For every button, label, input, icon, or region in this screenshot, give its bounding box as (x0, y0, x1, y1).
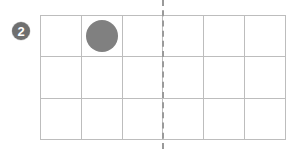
grid-cell-r2-c3[interactable] (123, 57, 164, 98)
dashed-divider-line (162, 0, 164, 149)
question-number-label: 2 (17, 24, 24, 37)
grid-cell-r1-c5[interactable] (204, 16, 245, 57)
grid-cell-r2-c6[interactable] (245, 57, 286, 98)
grid-cell-r3-c5[interactable] (204, 99, 245, 140)
grid-cell-r1-c6[interactable] (245, 16, 286, 57)
grid-cell-r1-c3[interactable] (123, 16, 164, 57)
grid-cell-r2-c4[interactable] (163, 57, 204, 98)
grid-cell-r3-c3[interactable] (123, 99, 164, 140)
grid-cell-r1-c2[interactable] (82, 16, 123, 57)
grid-cell-r2-c1[interactable] (41, 57, 82, 98)
counter-token-circle (86, 20, 118, 52)
grid-cell-r1-c1[interactable] (41, 16, 82, 57)
grid-cell-r2-c5[interactable] (204, 57, 245, 98)
worksheet-canvas: 2 (0, 0, 294, 149)
grid-cell-r1-c4[interactable] (163, 16, 204, 57)
grid-cell-r3-c4[interactable] (163, 99, 204, 140)
question-number-badge: 2 (12, 22, 30, 40)
grid-cell-r2-c2[interactable] (82, 57, 123, 98)
grid-cell-r3-c1[interactable] (41, 99, 82, 140)
grid-cell-r3-c6[interactable] (245, 99, 286, 140)
grid-cell-r3-c2[interactable] (82, 99, 123, 140)
